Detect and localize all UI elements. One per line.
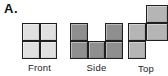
grid-cell [146,5,168,23]
side-view-grid [70,23,123,59]
grid-cell [128,41,146,59]
grid-cell [88,41,106,59]
grid-cell-empty [88,23,106,41]
grid-cell [22,23,40,41]
side-view-label: Side [68,62,125,73]
grid-cell-empty [128,5,146,23]
grid-cell [146,23,168,41]
item-marker: A. [4,1,18,16]
figure-canvas: A. Front Side Top [0,0,168,76]
top-view-label: Top [126,63,166,74]
grid-cell [22,41,40,59]
grid-cell-empty [146,41,168,59]
grid-cell [40,41,58,59]
grid-cell [105,23,123,41]
grid-cell [70,41,88,59]
front-view-label: Front [20,62,59,73]
grid-cell [40,23,58,41]
grid-cell [105,41,123,59]
front-view-grid [22,23,57,59]
top-view-grid [128,5,168,59]
grid-cell [128,23,146,41]
grid-cell [70,23,88,41]
